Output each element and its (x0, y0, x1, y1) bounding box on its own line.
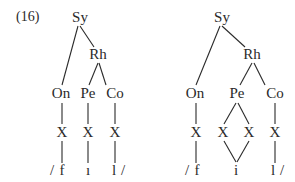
node-timing-slot: X (270, 124, 281, 140)
syllable-tree-diagram: (16) Sy Rh On Pe Co X X X / f ı l / (0, 0, 295, 182)
node-peak: Pe (81, 85, 96, 101)
right-tree: Sy Rh On Pe Co X X X X / f i l / (185, 9, 285, 178)
node-timing-slot: X (57, 124, 68, 140)
edge-pe-x-right (238, 103, 249, 124)
edge-rh-pe (89, 63, 98, 85)
segment-l: l (112, 162, 116, 178)
node-onset: On (52, 85, 71, 101)
left-tree: Sy Rh On Pe Co X X X / f ı l / (50, 9, 126, 178)
node-peak: Pe (230, 85, 245, 101)
edge-rh-co (254, 63, 265, 85)
edge-sy-rh (222, 26, 245, 47)
node-rhyme: Rh (243, 46, 261, 62)
node-coda: Co (106, 85, 124, 101)
edge-rh-pe (240, 63, 252, 85)
segment-open-slash: / (50, 162, 55, 178)
segment-f: f (60, 162, 65, 178)
node-syllable: Sy (214, 9, 230, 25)
example-number: (16) (16, 9, 40, 25)
node-timing-slot: X (191, 124, 202, 140)
node-rhyme: Rh (89, 46, 107, 62)
segment-l: l (271, 162, 275, 178)
segment-i: i (234, 162, 238, 178)
segment-open-slash: / (185, 162, 190, 178)
node-timing-slot: X (218, 124, 229, 140)
edge-x-i-left (224, 141, 236, 162)
node-timing-slot: X (244, 124, 255, 140)
edge-sy-on (62, 26, 78, 85)
edge-rh-co (99, 63, 106, 85)
segment-f: f (195, 162, 200, 178)
node-coda: Co (266, 85, 284, 101)
edge-sy-on (196, 26, 220, 85)
segment-i: ı (86, 162, 90, 178)
edge-sy-rh (80, 26, 94, 47)
edge-x-i-right (237, 141, 249, 162)
node-onset: On (186, 85, 205, 101)
segment-close-slash: / (121, 162, 126, 178)
node-syllable: Sy (72, 9, 88, 25)
node-timing-slot: X (110, 124, 121, 140)
segment-close-slash: / (280, 162, 285, 178)
edge-pe-x-left (224, 103, 236, 124)
node-timing-slot: X (83, 124, 94, 140)
